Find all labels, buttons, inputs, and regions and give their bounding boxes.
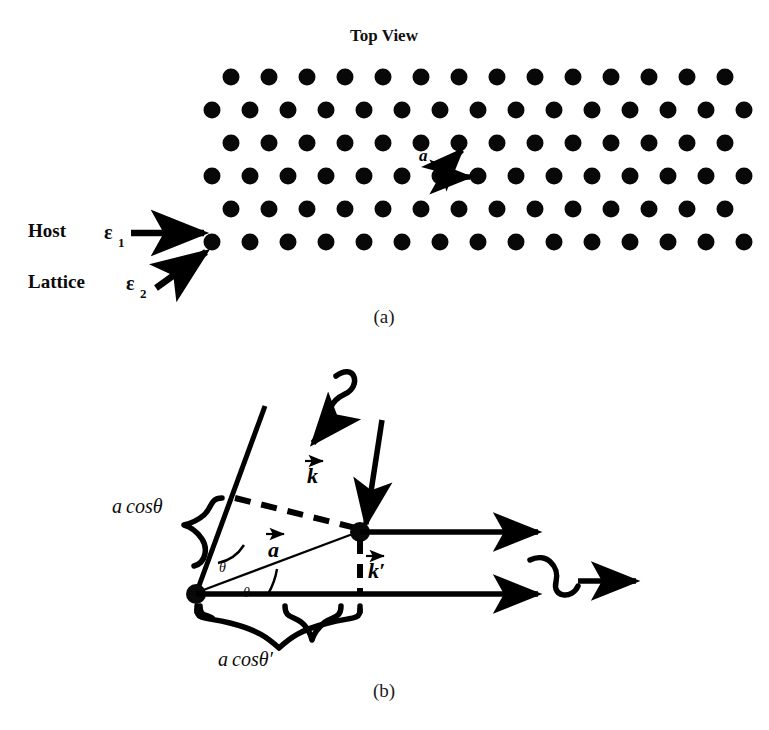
lattice-dot bbox=[318, 102, 335, 119]
lattice-dot bbox=[451, 135, 468, 152]
lattice-dot bbox=[489, 135, 506, 152]
lattice-dot bbox=[223, 135, 240, 152]
lattice-dot bbox=[223, 201, 240, 218]
lattice-dot bbox=[280, 102, 297, 119]
lattice-dot bbox=[356, 234, 373, 251]
lattice-dot bbox=[736, 102, 753, 119]
lattice-dot bbox=[204, 102, 221, 119]
panel-b-caption: (b) bbox=[373, 680, 395, 702]
lattice-dot bbox=[375, 69, 392, 86]
a-cos-theta-label: a cosθ bbox=[112, 495, 163, 517]
lattice-dot bbox=[375, 135, 392, 152]
lattice-dot bbox=[717, 135, 734, 152]
lattice-dot bbox=[356, 168, 373, 185]
lattice-dot bbox=[717, 201, 734, 218]
lattice-dot bbox=[261, 135, 278, 152]
lattice-dot bbox=[641, 135, 658, 152]
lattice-dot bbox=[242, 234, 259, 251]
theta-label-lower: θ bbox=[243, 585, 250, 600]
lattice-dot bbox=[470, 102, 487, 119]
physics-figure-svg: Top View a Host ε 1 Lattice ε 2 (a) bbox=[0, 0, 769, 730]
lattice-dot bbox=[451, 201, 468, 218]
lattice-dot bbox=[489, 201, 506, 218]
lattice-dot bbox=[641, 69, 658, 86]
lattice-dot bbox=[527, 135, 544, 152]
lattice-dot bbox=[318, 168, 335, 185]
lattice-dot bbox=[451, 69, 468, 86]
lattice-dot bbox=[299, 201, 316, 218]
lattice-dot bbox=[565, 69, 582, 86]
lattice-dot bbox=[280, 168, 297, 185]
a-vector-label: a bbox=[268, 537, 279, 562]
lattice-dot bbox=[318, 234, 335, 251]
figure-root: Top View a Host ε 1 Lattice ε 2 (a) bbox=[0, 0, 769, 730]
lattice-dot bbox=[280, 234, 297, 251]
lattice-dot bbox=[394, 234, 411, 251]
lattice-dot bbox=[584, 234, 601, 251]
lattice-dot bbox=[508, 102, 525, 119]
panel-a-title: Top View bbox=[350, 26, 419, 45]
lattice-dot bbox=[356, 102, 373, 119]
a-cos-theta-prime-label: a cosθ′ bbox=[218, 648, 273, 670]
lattice-dot bbox=[603, 201, 620, 218]
lattice-dot bbox=[603, 69, 620, 86]
lattice-dot bbox=[394, 168, 411, 185]
lattice-dot bbox=[603, 135, 620, 152]
lattice-label: Lattice bbox=[28, 271, 85, 292]
panel-a-caption: (a) bbox=[373, 306, 394, 328]
lattice-dot bbox=[204, 168, 221, 185]
lattice-dot bbox=[622, 168, 639, 185]
lattice-dot bbox=[584, 102, 601, 119]
lattice-dot bbox=[698, 102, 715, 119]
lattice-dot bbox=[413, 201, 430, 218]
lattice-dot bbox=[261, 201, 278, 218]
lattice-dot bbox=[660, 102, 677, 119]
lattice-epsilon-symbol: ε bbox=[126, 272, 135, 294]
lattice-dot bbox=[565, 201, 582, 218]
lattice-vector-label: a bbox=[419, 146, 428, 165]
lattice-dot bbox=[660, 168, 677, 185]
lattice-dot bbox=[698, 168, 715, 185]
lattice-dot bbox=[470, 168, 487, 185]
lattice-dot bbox=[394, 102, 411, 119]
k-prime-vector-label-group: k′ bbox=[366, 556, 385, 583]
lattice-dot bbox=[641, 201, 658, 218]
lattice-dot bbox=[242, 168, 259, 185]
lattice-dot bbox=[736, 234, 753, 251]
lattice-epsilon-subscript: 2 bbox=[140, 286, 147, 301]
lattice-dot bbox=[622, 234, 639, 251]
lattice-dot bbox=[242, 102, 259, 119]
host-epsilon-symbol: ε bbox=[104, 221, 113, 243]
lattice-dot bbox=[660, 234, 677, 251]
lattice-dot bbox=[622, 102, 639, 119]
lattice-dot bbox=[508, 168, 525, 185]
lattice-dot bbox=[337, 135, 354, 152]
lattice-dot bbox=[413, 69, 430, 86]
lattice-dot bbox=[337, 201, 354, 218]
lattice-dot bbox=[261, 69, 278, 86]
lattice-dot bbox=[546, 102, 563, 119]
lattice-dot bbox=[546, 168, 563, 185]
lattice-dot bbox=[508, 234, 525, 251]
lattice-dot bbox=[546, 234, 563, 251]
lattice-dot bbox=[432, 102, 449, 119]
host-epsilon-subscript: 1 bbox=[118, 235, 125, 250]
lattice-dot bbox=[299, 135, 316, 152]
lattice-dot bbox=[736, 168, 753, 185]
lattice-dot bbox=[679, 69, 696, 86]
canvas-background bbox=[0, 0, 769, 730]
theta-label-upper: θ bbox=[219, 560, 226, 575]
lattice-dot bbox=[299, 69, 316, 86]
lattice-dot bbox=[527, 201, 544, 218]
lattice-dot bbox=[337, 69, 354, 86]
k-prime-vector-label: k′ bbox=[368, 558, 385, 583]
lattice-dot bbox=[527, 69, 544, 86]
lattice-dot bbox=[375, 201, 392, 218]
lattice-dot bbox=[432, 234, 449, 251]
lattice-dot bbox=[489, 69, 506, 86]
lattice-dot bbox=[565, 135, 582, 152]
k-vector-label: k bbox=[307, 463, 318, 488]
lattice-dot bbox=[717, 69, 734, 86]
lattice-dot bbox=[204, 234, 221, 251]
lattice-dot bbox=[679, 135, 696, 152]
